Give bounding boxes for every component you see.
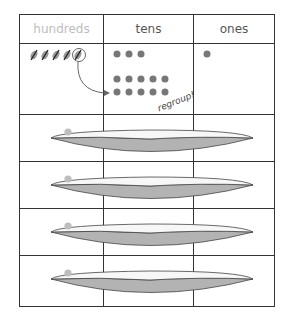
hundreds-crossed-marks (29, 49, 110, 97)
header-ones: ones (194, 14, 274, 43)
place-value-chart: hundreds tens ones regroup! (0, 0, 289, 328)
ones-dot (204, 51, 211, 58)
boat-row-2 (51, 175, 253, 198)
boat-row-4 (51, 269, 253, 292)
header-tens: tens (104, 14, 193, 43)
boat-row-3 (51, 222, 253, 245)
chart-grid (0, 0, 289, 328)
tens-dots (114, 51, 169, 96)
boat-row-1 (51, 128, 253, 151)
header-hundreds: hundreds (20, 14, 103, 43)
